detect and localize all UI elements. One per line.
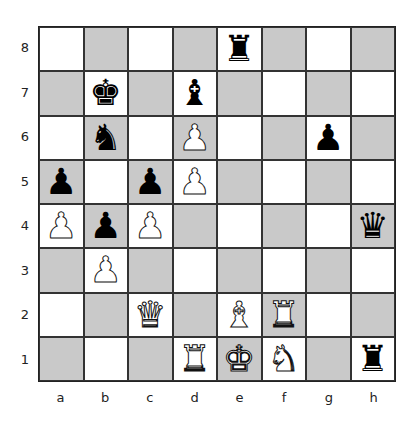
black-knight-icon[interactable]: ♞ <box>90 120 122 156</box>
square-b4[interactable]: ♟ <box>84 204 129 248</box>
square-f8[interactable] <box>262 27 307 71</box>
square-e6[interactable] <box>217 116 262 160</box>
black-pawn-icon[interactable]: ♟ <box>312 120 344 156</box>
rank-label-7: 7 <box>18 85 32 100</box>
file-label-e: e <box>217 390 262 405</box>
white-king-icon[interactable]: ♚ <box>223 341 255 377</box>
square-f3[interactable] <box>262 248 307 292</box>
chess-board: ♜♚♝♞♟♟♟♟♟♟♟♟♛♟♛♝♜♜♚♞♜ <box>38 26 396 382</box>
square-f7[interactable] <box>262 71 307 115</box>
square-e1[interactable]: ♚ <box>217 337 262 381</box>
rank-label-2: 2 <box>18 307 32 322</box>
file-label-g: g <box>307 390 352 405</box>
black-pawn-icon[interactable]: ♟ <box>45 164 77 200</box>
square-d1[interactable]: ♜ <box>173 337 218 381</box>
rank-label-4: 4 <box>18 218 32 233</box>
white-bishop-icon[interactable]: ♝ <box>223 297 255 333</box>
square-a6[interactable] <box>39 116 84 160</box>
square-b2[interactable] <box>84 293 129 337</box>
square-c3[interactable] <box>128 248 173 292</box>
square-a1[interactable] <box>39 337 84 381</box>
file-label-a: a <box>38 390 83 405</box>
square-h6[interactable] <box>351 116 396 160</box>
file-label-c: c <box>128 390 173 405</box>
file-label-h: h <box>351 390 396 405</box>
square-a5[interactable]: ♟ <box>39 160 84 204</box>
square-g1[interactable] <box>306 337 351 381</box>
square-a7[interactable] <box>39 71 84 115</box>
square-b8[interactable] <box>84 27 129 71</box>
square-d4[interactable] <box>173 204 218 248</box>
square-c7[interactable] <box>128 71 173 115</box>
square-h2[interactable] <box>351 293 396 337</box>
square-h8[interactable] <box>351 27 396 71</box>
square-c2[interactable]: ♛ <box>128 293 173 337</box>
rank-label-5: 5 <box>18 174 32 189</box>
black-king-icon[interactable]: ♚ <box>90 75 122 111</box>
square-d5[interactable]: ♟ <box>173 160 218 204</box>
black-rook-icon[interactable]: ♜ <box>223 31 255 67</box>
square-e3[interactable] <box>217 248 262 292</box>
square-h1[interactable]: ♜ <box>351 337 396 381</box>
black-queen-icon[interactable]: ♛ <box>357 208 389 244</box>
square-b1[interactable] <box>84 337 129 381</box>
square-h4[interactable]: ♛ <box>351 204 396 248</box>
black-pawn-icon[interactable]: ♟ <box>90 208 122 244</box>
rank-label-6: 6 <box>18 129 32 144</box>
square-a8[interactable] <box>39 27 84 71</box>
square-g8[interactable] <box>306 27 351 71</box>
square-f1[interactable]: ♞ <box>262 337 307 381</box>
square-g3[interactable] <box>306 248 351 292</box>
square-b7[interactable]: ♚ <box>84 71 129 115</box>
white-rook-icon[interactable]: ♜ <box>268 297 300 333</box>
square-f2[interactable]: ♜ <box>262 293 307 337</box>
square-d8[interactable] <box>173 27 218 71</box>
square-b3[interactable]: ♟ <box>84 248 129 292</box>
square-d3[interactable] <box>173 248 218 292</box>
square-g2[interactable] <box>306 293 351 337</box>
square-a2[interactable] <box>39 293 84 337</box>
square-h7[interactable] <box>351 71 396 115</box>
square-c4[interactable]: ♟ <box>128 204 173 248</box>
square-e8[interactable]: ♜ <box>217 27 262 71</box>
rank-label-1: 1 <box>18 352 32 367</box>
square-g4[interactable] <box>306 204 351 248</box>
rank-label-3: 3 <box>18 263 32 278</box>
square-a3[interactable] <box>39 248 84 292</box>
white-pawn-icon[interactable]: ♟ <box>45 208 77 244</box>
black-rook-icon[interactable]: ♜ <box>357 341 389 377</box>
square-b5[interactable] <box>84 160 129 204</box>
square-c5[interactable]: ♟ <box>128 160 173 204</box>
white-pawn-icon[interactable]: ♟ <box>179 120 211 156</box>
white-rook-icon[interactable]: ♜ <box>179 341 211 377</box>
white-knight-icon[interactable]: ♞ <box>268 341 300 377</box>
file-label-d: d <box>172 390 217 405</box>
square-e4[interactable] <box>217 204 262 248</box>
square-h3[interactable] <box>351 248 396 292</box>
white-pawn-icon[interactable]: ♟ <box>134 208 166 244</box>
white-pawn-icon[interactable]: ♟ <box>179 164 211 200</box>
square-a4[interactable]: ♟ <box>39 204 84 248</box>
black-pawn-icon[interactable]: ♟ <box>134 164 166 200</box>
square-d6[interactable]: ♟ <box>173 116 218 160</box>
square-f6[interactable] <box>262 116 307 160</box>
square-e5[interactable] <box>217 160 262 204</box>
square-f4[interactable] <box>262 204 307 248</box>
square-g5[interactable] <box>306 160 351 204</box>
square-c8[interactable] <box>128 27 173 71</box>
square-f5[interactable] <box>262 160 307 204</box>
square-g7[interactable] <box>306 71 351 115</box>
square-e2[interactable]: ♝ <box>217 293 262 337</box>
square-c1[interactable] <box>128 337 173 381</box>
square-d2[interactable] <box>173 293 218 337</box>
square-e7[interactable] <box>217 71 262 115</box>
black-bishop-icon[interactable]: ♝ <box>179 75 211 111</box>
square-c6[interactable] <box>128 116 173 160</box>
square-g6[interactable]: ♟ <box>306 116 351 160</box>
square-d7[interactable]: ♝ <box>173 71 218 115</box>
square-h5[interactable] <box>351 160 396 204</box>
white-queen-icon[interactable]: ♛ <box>134 297 166 333</box>
white-pawn-icon[interactable]: ♟ <box>90 252 122 288</box>
rank-label-8: 8 <box>18 40 32 55</box>
square-b6[interactable]: ♞ <box>84 116 129 160</box>
